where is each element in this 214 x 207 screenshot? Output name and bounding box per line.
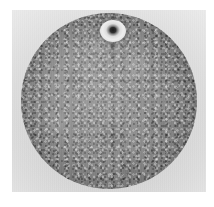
specimen-plate xyxy=(12,10,206,192)
annulus-core xyxy=(110,27,116,33)
image-canvas xyxy=(0,0,214,207)
bright-annulus-feature xyxy=(100,20,126,42)
